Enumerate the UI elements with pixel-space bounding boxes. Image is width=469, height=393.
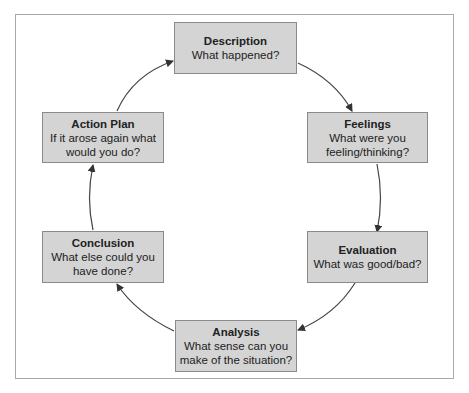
node-question: What sense can you xyxy=(184,339,288,353)
node-question: would you do? xyxy=(66,145,140,159)
node-question: feeling/thinking? xyxy=(326,145,409,159)
arrow-action-plan-to-description xyxy=(117,61,173,111)
arrow-description-to-feelings xyxy=(298,63,352,111)
node-evaluation: Evaluation What was good/bad? xyxy=(307,231,428,283)
node-title: Feelings xyxy=(344,117,391,131)
node-question: What else could you xyxy=(51,250,155,264)
node-question: make of the situation? xyxy=(180,353,293,367)
node-title: Description xyxy=(204,34,267,48)
arrow-conclusion-to-action-plan xyxy=(90,165,94,230)
arrow-feelings-to-evaluation xyxy=(377,164,381,232)
node-description: Description What happened? xyxy=(174,22,297,74)
node-question: If it arose again what xyxy=(50,131,156,145)
arrow-analysis-to-conclusion xyxy=(117,284,174,331)
node-conclusion: Conclusion What else could you have done… xyxy=(42,231,164,283)
node-feelings: Feelings What were you feeling/thinking? xyxy=(307,112,428,163)
node-title: Evaluation xyxy=(338,243,396,257)
node-question: What was good/bad? xyxy=(313,257,421,271)
node-question: have done? xyxy=(73,264,133,278)
node-analysis: Analysis What sense can you make of the … xyxy=(175,320,297,372)
node-question: What were you xyxy=(329,131,406,145)
node-action-plan: Action Plan If it arose again what would… xyxy=(42,112,164,163)
arrow-evaluation-to-analysis xyxy=(298,283,355,330)
node-title: Analysis xyxy=(212,325,259,339)
node-title: Conclusion xyxy=(72,236,135,250)
node-title: Action Plan xyxy=(71,117,134,131)
node-question: What happened? xyxy=(192,48,280,62)
